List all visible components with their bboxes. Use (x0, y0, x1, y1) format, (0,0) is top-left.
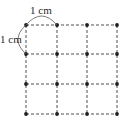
grid-dot (85, 23, 89, 27)
grid-dot (24, 112, 28, 116)
grid-dot (115, 112, 119, 116)
dot-grid-diagram: 1 cm 1 cm (0, 0, 127, 126)
top-measurement-label: 1 cm (30, 5, 52, 16)
dashed-grid-lines (26, 25, 117, 114)
measurement-arcs (18, 16, 57, 54)
grid-dot (85, 112, 89, 116)
left-measurement-label: 1 cm (0, 34, 22, 45)
grid-dot (115, 82, 119, 86)
grid-canvas (0, 0, 127, 126)
grid-dot (55, 52, 59, 56)
grid-dot (85, 82, 89, 86)
grid-dot (55, 82, 59, 86)
top-measurement-arc (26, 16, 57, 25)
grid-dot (85, 52, 89, 56)
grid-dots (24, 23, 119, 116)
grid-dot (115, 52, 119, 56)
grid-dot (24, 82, 28, 86)
grid-dot (55, 112, 59, 116)
grid-dot (115, 23, 119, 27)
